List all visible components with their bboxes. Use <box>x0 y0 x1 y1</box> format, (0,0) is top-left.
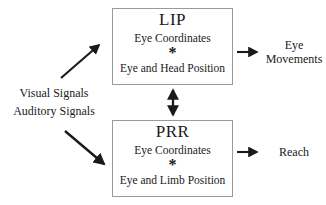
output-label-reach: Reach <box>262 145 326 159</box>
node-prr-eye-and-limb-position: Eye and Limb Position <box>120 173 226 187</box>
node-title-prr: PRR <box>156 122 190 141</box>
input-label-auditory-signals: Auditory Signals <box>0 102 108 120</box>
output-label-reach-line1: Reach <box>262 145 326 159</box>
output-label-eye-movements: Eye Movements <box>262 38 326 66</box>
input-signals-group: Visual Signals Auditory Signals <box>0 84 108 120</box>
asterisk-icon-lip: * <box>169 47 177 59</box>
node-lip-eye-coordinates: Eye Coordinates <box>134 31 210 45</box>
output-label-eye-movements-line2: Movements <box>262 52 326 66</box>
node-box-lip: LIP Eye Coordinates * Eye and Head Posit… <box>112 8 233 85</box>
arrow-visual-auditory-to-lip <box>61 45 99 78</box>
asterisk-icon-prr: * <box>169 159 177 171</box>
node-prr-eye-coordinates: Eye Coordinates <box>134 143 210 157</box>
node-box-prr: PRR Eye Coordinates * Eye and Limb Posit… <box>112 120 233 197</box>
arrow-visual-auditory-to-prr <box>65 131 104 164</box>
node-title-lip: LIP <box>159 10 186 29</box>
diagram-canvas: Visual Signals Auditory Signals LIP Eye … <box>0 0 326 205</box>
node-lip-eye-and-head-position: Eye and Head Position <box>120 61 225 75</box>
output-label-eye-movements-line1: Eye <box>262 38 326 52</box>
input-label-visual-signals: Visual Signals <box>0 84 108 102</box>
